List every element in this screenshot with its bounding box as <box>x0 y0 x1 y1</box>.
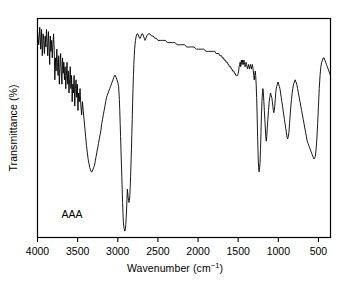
y-axis-title: Transmittance (%) <box>7 84 19 171</box>
x-tick-label: 500 <box>310 245 328 257</box>
x-tick-label: 2000 <box>186 245 210 257</box>
x-tick-label: 4000 <box>26 245 50 257</box>
plot-annotations: AAA <box>62 208 83 220</box>
x-axis-title-text: Wavenumber (cm <box>127 262 211 274</box>
x-axis-tick-labels: 4000350030002500200015001000500 <box>26 245 328 257</box>
x-axis-title-exponent: −1 <box>211 261 220 270</box>
sample-label-annotation: AAA <box>62 208 83 220</box>
x-axis-ticks <box>38 238 319 243</box>
x-tick-label: 1500 <box>227 245 251 257</box>
x-axis-title: Wavenumber (cm−1) <box>0 262 350 274</box>
x-tick-label: 3000 <box>106 245 130 257</box>
plot-frame <box>38 19 331 238</box>
ftir-spectrum-figure: 4000350030002500200015001000500 AAA Tran… <box>0 0 350 286</box>
plot-border <box>38 19 331 238</box>
x-tick-label: 3500 <box>66 245 90 257</box>
y-axis-title-container: Transmittance (%) <box>0 0 26 256</box>
spectrum-plot-canvas: 4000350030002500200015001000500 AAA <box>0 0 350 286</box>
x-axis-title-close: ) <box>220 262 224 274</box>
x-tick-label: 1000 <box>267 245 291 257</box>
x-tick-label: 2500 <box>146 245 170 257</box>
